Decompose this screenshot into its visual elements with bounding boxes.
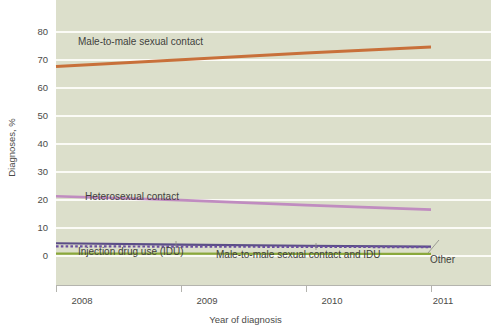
series-label-msm: Male-to-male sexual contact [78, 36, 203, 47]
y-tick-label-60: 60 [37, 82, 48, 93]
x-tick-mark-2008 [56, 285, 57, 292]
y-tick-label-50: 50 [37, 110, 48, 121]
series-label-other: Other [430, 254, 455, 265]
series-label-idu: Injection drug use (IDU) [78, 246, 184, 257]
y-tick-label-40: 40 [37, 138, 48, 149]
series-line-male-to-male-sexual-contact [56, 47, 431, 67]
y-tick-label-0: 0 [43, 250, 48, 261]
x-tick-label-2008: 2008 [71, 295, 92, 306]
x-tick-label-2011: 2011 [433, 295, 453, 306]
y-axis-title: Diagnoses, % [6, 93, 17, 203]
series-label-heterosexual: Heterosexual contact [85, 191, 179, 202]
y-tick-label-30: 30 [37, 166, 48, 177]
y-tick-label-70: 70 [37, 54, 48, 65]
x-tick-mark-2011 [431, 285, 432, 292]
chart-figure: 80 70 60 50 40 30 20 10 0 Diagnoses, % 2… [0, 0, 491, 336]
x-tick-label-2010: 2010 [321, 295, 342, 306]
y-tick-label-80: 80 [37, 26, 48, 37]
x-tick-mark-2009 [181, 285, 182, 292]
x-tick-mark-2010 [306, 285, 307, 292]
y-tick-label-20: 20 [37, 194, 48, 205]
x-axis-title: Year of diagnosis [0, 314, 491, 325]
x-tick-label-2009: 2009 [196, 295, 217, 306]
x-axis-line [56, 285, 491, 286]
y-tick-label-10: 10 [37, 222, 48, 233]
series-label-msm-idu: Male-to-male sexual contact and IDU [216, 249, 381, 260]
